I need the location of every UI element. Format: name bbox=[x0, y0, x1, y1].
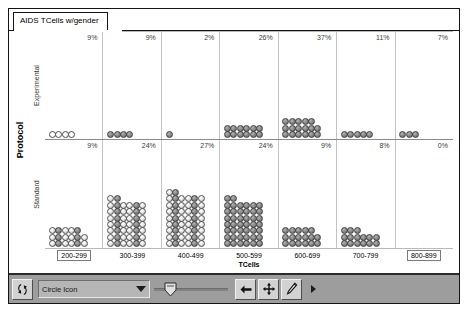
x-axis-tick-label: 300-399 bbox=[116, 250, 150, 261]
chevron-down-icon bbox=[136, 286, 146, 292]
x-axis-title: TCells bbox=[45, 261, 453, 272]
data-point-dot[interactable] bbox=[412, 131, 419, 138]
dot-stack bbox=[166, 132, 219, 138]
plot-cell[interactable]: 9% bbox=[45, 32, 102, 139]
plot-region: Protocol Experimental Standard 9%9%2%26%… bbox=[9, 31, 459, 273]
icon-style-select-value: Circle Icon bbox=[42, 285, 136, 294]
pencil-tool-button[interactable] bbox=[281, 279, 302, 300]
plot-cell[interactable]: 8% bbox=[336, 140, 394, 248]
icon-size-slider[interactable] bbox=[154, 279, 228, 299]
slider-thumb[interactable] bbox=[164, 282, 177, 297]
dot-stack bbox=[107, 196, 147, 247]
arrow-left-icon bbox=[239, 283, 253, 296]
document-tab-label: AIDS TCells w/gender bbox=[20, 16, 99, 25]
dot-stack bbox=[400, 132, 453, 138]
plot-grid: 9%9%2%26%37%11%7% 9%24%27%24%9%8%0% bbox=[45, 31, 453, 249]
plot-cell[interactable]: 11% bbox=[336, 32, 394, 139]
x-axis-tick[interactable]: 700-799 bbox=[336, 249, 394, 261]
dot-stack bbox=[49, 228, 89, 247]
x-axis-tick-label: 500-599 bbox=[232, 250, 266, 261]
y-axis-title: Protocol bbox=[13, 31, 27, 249]
panel-label-standard-text: Standard bbox=[33, 180, 40, 208]
cell-percent-label: 11% bbox=[376, 34, 390, 42]
bottom-toolbar: Circle Icon bbox=[9, 273, 459, 303]
panel-label-experimental: Experimental bbox=[27, 31, 45, 140]
dot-stack bbox=[107, 132, 160, 138]
dot-stack bbox=[283, 119, 323, 138]
data-point-dot[interactable] bbox=[126, 131, 133, 138]
dot-stack bbox=[283, 228, 323, 247]
data-point-dot[interactable] bbox=[198, 240, 205, 247]
rotate-tool-button[interactable] bbox=[12, 279, 33, 300]
move-cross-arrows-icon bbox=[262, 282, 276, 296]
title-bar: AIDS TCells w/gender bbox=[9, 9, 459, 31]
move-tool-button[interactable] bbox=[258, 279, 279, 300]
x-axis-tick[interactable]: 600-699 bbox=[278, 249, 336, 261]
data-point-dot[interactable] bbox=[314, 240, 321, 247]
plot-cell[interactable]: 9% bbox=[45, 140, 102, 248]
x-axis-tick[interactable]: 500-599 bbox=[220, 249, 278, 261]
dot-stack bbox=[166, 189, 206, 247]
x-axis-tick-label: 600-699 bbox=[290, 250, 324, 261]
cell-percent-label: 27% bbox=[200, 142, 214, 150]
x-axis-tick-row: 200-299300-399400-499500-599600-699700-7… bbox=[45, 249, 453, 261]
data-point-dot[interactable] bbox=[314, 131, 321, 138]
rotate-arrows-icon bbox=[15, 282, 30, 297]
plot-cell[interactable]: 0% bbox=[395, 140, 453, 248]
x-axis-tick[interactable]: 300-399 bbox=[103, 249, 161, 261]
tab-underline-mask bbox=[14, 30, 122, 32]
data-point-dot[interactable] bbox=[139, 240, 146, 247]
cell-percent-label: 37% bbox=[317, 34, 331, 42]
x-axis-tick[interactable]: 400-499 bbox=[162, 249, 220, 261]
cell-percent-label: 0% bbox=[438, 142, 448, 150]
data-point-dot[interactable] bbox=[166, 131, 173, 138]
panel-label-standard: Standard bbox=[27, 140, 45, 249]
plot-cell[interactable]: 24% bbox=[219, 140, 277, 248]
pencil-icon bbox=[285, 282, 298, 296]
cell-percent-label: 9% bbox=[87, 142, 97, 150]
x-axis-tick-label: 700-799 bbox=[349, 250, 383, 261]
dot-stack bbox=[341, 228, 381, 247]
icon-style-select[interactable]: Circle Icon bbox=[38, 280, 150, 298]
cell-percent-label: 24% bbox=[259, 142, 273, 150]
x-axis-tick[interactable]: 200-299 bbox=[45, 249, 103, 261]
dot-stack bbox=[341, 132, 394, 138]
chevron-right-icon bbox=[311, 285, 316, 293]
data-point-dot[interactable] bbox=[81, 240, 88, 247]
back-arrow-button[interactable] bbox=[235, 279, 256, 300]
cell-percent-label: 9% bbox=[321, 142, 331, 150]
x-axis-title-label: TCells bbox=[238, 261, 259, 268]
panel-experimental: 9%9%2%26%37%11%7% bbox=[45, 32, 453, 140]
cell-percent-label: 8% bbox=[379, 142, 389, 150]
data-point-dot[interactable] bbox=[256, 131, 263, 138]
plot-cell[interactable]: 2% bbox=[161, 32, 219, 139]
plot-cell[interactable]: 9% bbox=[102, 32, 160, 139]
cell-percent-label: 26% bbox=[259, 34, 273, 42]
cell-percent-label: 24% bbox=[142, 142, 156, 150]
application-window: AIDS TCells w/gender Protocol Experiment… bbox=[8, 8, 460, 304]
slider-thumb-icon bbox=[164, 282, 177, 297]
document-tab[interactable]: AIDS TCells w/gender bbox=[13, 12, 108, 31]
data-point-dot[interactable] bbox=[68, 131, 75, 138]
x-axis-tick-label: 800-899 bbox=[407, 250, 441, 261]
panel-standard: 9%24%27%24%9%8%0% bbox=[45, 140, 453, 248]
plot-cell[interactable]: 7% bbox=[395, 32, 453, 139]
plot-cell[interactable]: 9% bbox=[278, 140, 336, 248]
plot-cell[interactable]: 37% bbox=[278, 32, 336, 139]
data-point-dot[interactable] bbox=[366, 131, 373, 138]
x-axis-tick[interactable]: 800-899 bbox=[395, 249, 453, 261]
panel-label-experimental-text: Experimental bbox=[33, 65, 40, 106]
x-axis-tick-label: 400-499 bbox=[174, 250, 208, 261]
cell-percent-label: 9% bbox=[146, 34, 156, 42]
data-point-dot[interactable] bbox=[256, 240, 263, 247]
plot-cell[interactable]: 26% bbox=[219, 32, 277, 139]
toolbar-overflow-button[interactable] bbox=[306, 279, 320, 300]
cell-percent-label: 9% bbox=[87, 34, 97, 42]
dot-stack bbox=[224, 125, 264, 138]
plot-cell[interactable]: 27% bbox=[161, 140, 219, 248]
x-axis-tick-label: 200-299 bbox=[57, 250, 91, 261]
y-axis-title-label: Protocol bbox=[15, 122, 25, 159]
plot-cell[interactable]: 24% bbox=[102, 140, 160, 248]
cell-percent-label: 7% bbox=[438, 34, 448, 42]
data-point-dot[interactable] bbox=[373, 240, 380, 247]
